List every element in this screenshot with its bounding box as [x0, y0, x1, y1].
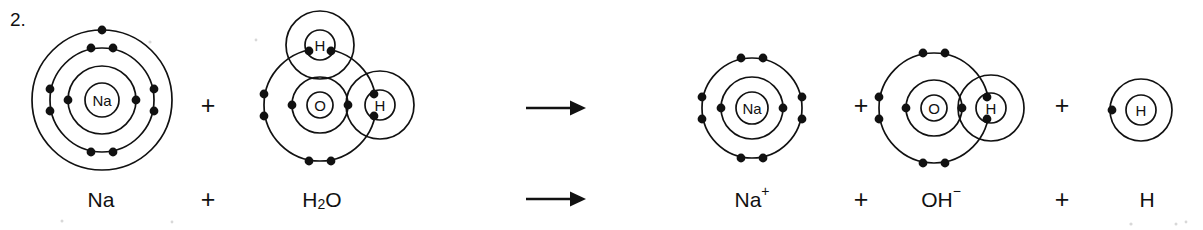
- outer-shell-electron: [698, 93, 707, 102]
- lone-pair-electron: [875, 115, 884, 124]
- scan-specks: [61, 39, 1188, 226]
- outer-shell-electron: [737, 154, 746, 163]
- lone-pair-electron: [919, 49, 928, 58]
- question-number: 2.: [10, 9, 26, 30]
- equation-plus-3: +: [1055, 185, 1070, 213]
- water-h-right-label: H: [375, 97, 386, 114]
- sodium-ion: Na: [698, 54, 807, 163]
- outer-shell-electron: [87, 148, 96, 157]
- hydroxide-h-label: H: [986, 100, 997, 117]
- equation-term-na: Na: [88, 188, 115, 211]
- lone-pair-electron: [260, 90, 269, 99]
- inner-shell-electron: [958, 104, 967, 113]
- lone-pair-electron: [919, 159, 928, 168]
- outer-shell-electron: [759, 154, 768, 163]
- diagram-plus-1: +: [201, 91, 216, 119]
- outer-shell-electron: [759, 54, 768, 63]
- outer-shell-electron: [109, 44, 118, 53]
- equation-arrow-head: [570, 192, 586, 207]
- equation-term-hydrogen-base: H: [1139, 188, 1154, 211]
- lone-pair-electron: [941, 49, 950, 58]
- hydrogen-atom: H: [1108, 79, 1172, 141]
- outer-shell-electron: [798, 93, 807, 102]
- inner-shell-electron: [779, 104, 788, 113]
- valence-electron: [98, 26, 107, 35]
- equation-plus-1: +: [201, 185, 216, 213]
- sodium-atom-nucleus-label: Na: [92, 92, 112, 109]
- sodium-atom: Na: [32, 26, 172, 170]
- equation-term-water-base2: O: [325, 188, 341, 211]
- water-molecule-nucleus-label: O: [314, 97, 326, 114]
- hydroxide-ion: OH: [875, 49, 1024, 168]
- equation-plus-2: +: [854, 185, 869, 213]
- inner-shell-electron: [132, 96, 141, 105]
- equation-term-water-subscript: 2: [318, 196, 326, 212]
- diagram-reaction-arrow: [526, 101, 586, 116]
- diagram-reaction-arrow-head: [570, 101, 586, 116]
- lone-pair-electron: [875, 93, 884, 102]
- hydroxide-ion-nucleus-label: O: [928, 100, 940, 117]
- lone-pair-electron: [941, 159, 950, 168]
- equation-term-hydroxide: OH−: [921, 183, 961, 211]
- inner-shell-electron: [344, 101, 353, 110]
- outer-shell-electron: [737, 54, 746, 63]
- hydroxide-h-bonding-electron: [983, 93, 992, 102]
- equation-term-na-base: Na: [88, 188, 115, 211]
- outer-shell-electron: [698, 115, 707, 124]
- valence-electron: [1108, 106, 1117, 115]
- diagram-plus-2: +: [854, 91, 869, 119]
- water-h-right-bonding-electron: [370, 112, 379, 121]
- equation-text-row: Na+H2ONa++OH−+H: [88, 183, 1155, 213]
- water-h-top-bonding-electron: [305, 47, 314, 56]
- equation-term-hydroxide-superscript: −: [953, 183, 961, 199]
- water-h-right-bonding-electron: [370, 90, 379, 99]
- equation-term-hydroxide-base: OH: [921, 188, 953, 211]
- diagram-plus-3: +: [1055, 91, 1070, 119]
- inner-shell-electron: [717, 104, 726, 113]
- outer-shell-electron: [150, 85, 159, 94]
- worksheet-diagram-panel: 2. NaOHHNaOHH +++ Na+H2ONa++OH−+H: [0, 0, 1203, 230]
- inner-shell-electron: [902, 104, 911, 113]
- equation-arrow: [526, 192, 586, 207]
- hydrogen-atom-nucleus-label: H: [1136, 102, 1147, 119]
- outer-shell-electron: [798, 115, 807, 124]
- outer-shell-electron: [150, 107, 159, 116]
- equation-term-water: H2O: [302, 188, 341, 213]
- equation-term-water-base: H: [302, 188, 317, 211]
- lone-pair-electron: [305, 157, 314, 166]
- equation-term-sodium-ion: Na+: [734, 183, 769, 211]
- outer-shell-electron: [46, 107, 55, 116]
- lone-pair-electron: [327, 157, 336, 166]
- lone-pair-electron: [260, 112, 269, 121]
- chemical-equation-diagram: 2. NaOHHNaOHH +++ Na+H2ONa++OH−+H: [0, 0, 1203, 230]
- water-h-top-bonding-electron: [327, 47, 336, 56]
- hydroxide-h-bonding-electron: [983, 115, 992, 124]
- inner-shell-electron: [288, 101, 297, 110]
- outer-shell-electron: [46, 85, 55, 94]
- inner-shell-electron: [64, 96, 73, 105]
- equation-term-sodium-ion-superscript: +: [761, 183, 769, 199]
- outer-shell-electron: [87, 44, 96, 53]
- outer-shell-electron: [109, 148, 118, 157]
- equation-term-sodium-ion-base: Na: [734, 188, 761, 211]
- water-molecule: OHH: [260, 11, 414, 165]
- sodium-ion-nucleus-label: Na: [742, 100, 762, 117]
- equation-term-hydrogen: H: [1139, 188, 1154, 211]
- water-h-top-label: H: [315, 37, 326, 54]
